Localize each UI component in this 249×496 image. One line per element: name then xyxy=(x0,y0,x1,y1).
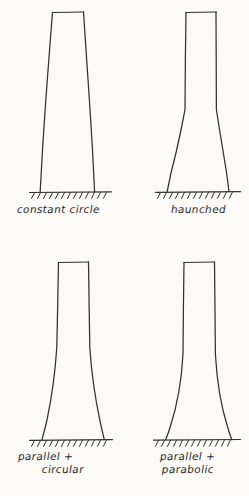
panel-label-line1: parallel + xyxy=(17,450,74,462)
panel-parallel-parabolic xyxy=(154,262,241,446)
panel-label-constant-circle: constant circle xyxy=(16,203,101,216)
ground-hatching-parallel-circular xyxy=(32,440,107,447)
ground-hatching-haunched xyxy=(158,192,233,199)
panel-label-line1: constant circle xyxy=(16,203,101,215)
tower-top-parallel-circular xyxy=(59,262,89,263)
ground-hatching-parallel-parabolic xyxy=(156,440,231,447)
panel-label-line1: haunched xyxy=(170,203,227,215)
panel-constant-circle xyxy=(30,12,112,199)
ground-hatching-constant-circle xyxy=(32,192,107,199)
panel-label-line2: parabolic xyxy=(157,463,215,476)
sketch-sheet: constant circle haunched parallel + circ… xyxy=(0,0,249,496)
ground-line-haunched xyxy=(156,192,241,193)
panel-haunched xyxy=(156,12,241,199)
panel-label-line1: parallel + xyxy=(159,450,216,462)
tower-left-edge-parallel-parabolic xyxy=(166,263,184,440)
tower-top-parallel-parabolic xyxy=(184,262,215,263)
tower-profiles-drawing xyxy=(0,0,249,496)
tower-right-edge-parallel-parabolic xyxy=(215,262,232,440)
tower-left-edge-parallel-circular xyxy=(42,263,59,440)
tower-left-edge-constant-circle xyxy=(40,13,52,192)
tower-top-haunched xyxy=(186,12,216,13)
tower-outline-constant-circle xyxy=(53,12,84,13)
panel-label-line2: circular xyxy=(15,463,85,476)
tower-right-edge-constant-circle xyxy=(84,12,95,192)
tower-left-edge-haunched xyxy=(167,13,186,192)
panel-label-parallel-circular: parallel + circular xyxy=(15,450,87,475)
tower-right-edge-parallel-circular xyxy=(89,262,105,440)
panel-label-parallel-parabolic: parallel + parabolic xyxy=(157,450,217,475)
panel-parallel-circular xyxy=(30,262,113,447)
panel-label-haunched: haunched xyxy=(170,203,227,216)
ground-line-parallel-parabolic xyxy=(154,440,241,441)
tower-right-edge-haunched xyxy=(216,12,229,192)
